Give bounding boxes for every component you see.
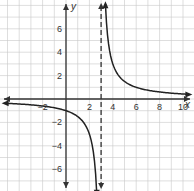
y-tick-label: 2	[57, 71, 62, 81]
x-tick-label: 2	[87, 102, 92, 112]
x-tick-label: 4	[110, 102, 115, 112]
grid-lines	[0, 0, 194, 191]
x-axis-label: x	[184, 99, 191, 110]
vertical-asymptote	[98, 3, 104, 189]
y-tick-label: 6	[57, 24, 62, 34]
y-axis-label: y	[70, 1, 77, 12]
y-tick-label: −6	[52, 164, 62, 174]
x-tick-label: 6	[134, 102, 139, 112]
function-curves	[2, 1, 193, 191]
y-tick-label: −4	[52, 141, 62, 151]
x-tick-label: 8	[157, 102, 162, 112]
x-tick-label: −2	[37, 102, 47, 112]
y-tick-label: 4	[57, 47, 62, 57]
function-graph: −2246810642−2−4−6 x y	[0, 0, 194, 191]
axes	[4, 4, 190, 188]
y-tick-label: −2	[52, 117, 62, 127]
